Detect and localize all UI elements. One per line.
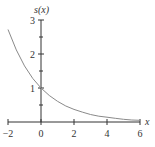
y-tick-label: 3 (30, 15, 35, 26)
y-tick-label: 1 (30, 83, 35, 94)
function-plot: −20246 123 x s(x) (0, 0, 155, 147)
x-tick-label: 0 (39, 128, 44, 139)
x-axis-label: x (144, 116, 150, 127)
x-tick-label: 6 (138, 128, 143, 139)
x-tick-label: 4 (105, 128, 110, 139)
x-tick-label: 2 (72, 128, 77, 139)
y-tick-label: 2 (30, 49, 35, 60)
curve-s-x (8, 30, 140, 121)
y-ticks: 123 (30, 15, 44, 106)
x-tick-label: −2 (3, 128, 14, 139)
y-axis-label: s(x) (34, 4, 50, 16)
